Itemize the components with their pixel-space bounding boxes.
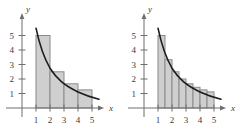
x-axis-arrow [98,106,104,111]
y-axis-arrow [142,13,147,19]
x-tick-label: 5 [212,115,217,125]
chart-panel-left: 1 2 3 4 5 1 2 3 4 5 y x [0,0,122,131]
x-tick-label: 3 [184,115,189,125]
y-axis-label: y [147,4,152,14]
x-axis-label: x [230,103,235,113]
bar [36,36,50,109]
y-tick-label: 5 [10,31,15,41]
x-tick-label: 1 [34,115,39,125]
x-axis-arrow [220,106,226,111]
y-tick-label: 2 [10,74,15,84]
bars-group-right [158,36,214,109]
bar [158,36,165,109]
y-axis-arrow [20,13,25,19]
y-tick-label: 2 [132,74,137,84]
y-tick-label: 1 [10,89,15,99]
bars-group-left [36,36,92,109]
x-tick-label: 1 [156,115,161,125]
y-tick-label: 5 [132,31,137,41]
x-tick-label: 2 [48,115,53,125]
x-tick-label: 4 [198,115,203,125]
y-tick-label: 4 [10,45,15,55]
y-tick-label: 3 [10,60,15,70]
y-axis-label: y [25,4,30,14]
x-tick-label: 2 [170,115,175,125]
y-tick-label: 3 [132,60,137,70]
chart-panel-right: 1 2 3 4 5 1 2 3 4 5 y x [122,0,244,131]
x-tick-label: 3 [62,115,67,125]
x-axis-label: x [108,103,113,113]
y-tick-label: 4 [132,45,137,55]
x-tick-label: 4 [76,115,81,125]
riemann-sum-figure: 1 2 3 4 5 1 2 3 4 5 y x [0,0,244,131]
y-tick-label: 1 [132,89,137,99]
x-tick-label: 5 [90,115,95,125]
bar [207,92,214,108]
